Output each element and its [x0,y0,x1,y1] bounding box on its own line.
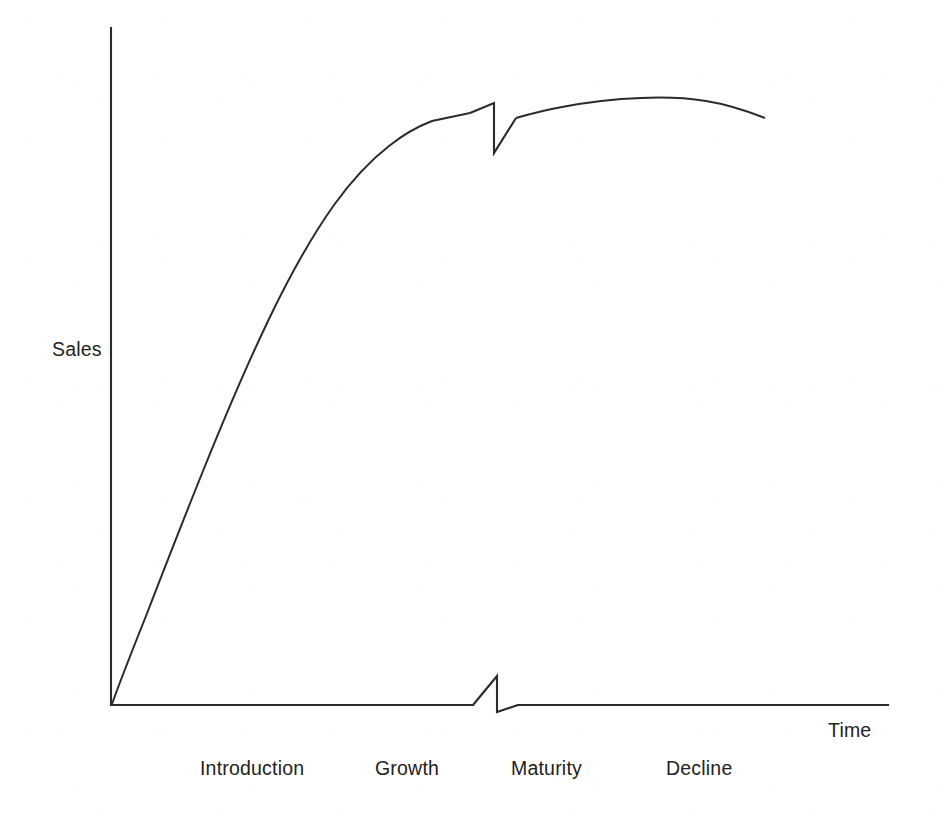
y-axis-label: Sales [52,340,102,360]
sales-curve-left [112,113,470,704]
x-axis-break-mark [473,676,518,712]
chart-canvas [0,0,945,832]
stage-label-decline: Decline [666,759,732,779]
sales-curve-break-mark [470,103,516,153]
stage-label-introduction: Introduction [200,759,304,779]
x-axis-label: Time [828,721,871,741]
sales-curve-right [516,98,765,118]
stage-label-maturity: Maturity [511,759,582,779]
stage-label-growth: Growth [375,759,439,779]
product-life-cycle-chart: Sales Time Introduction Growth Maturity … [0,0,945,832]
